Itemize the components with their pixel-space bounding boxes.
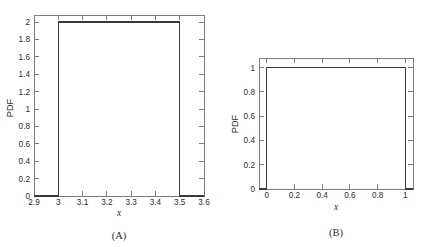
panel-a-ytick-1: 0.2: [19, 175, 31, 184]
panel-b-xtick-5: 1: [403, 191, 408, 200]
panel-a-ytick-8: 1.6: [19, 53, 31, 62]
panel-b-y-tick-labels: 0 0.2 0.4 0.6 0.8 1: [244, 64, 256, 194]
panel-a-pdf-curve: [34, 22, 204, 196]
panel-a-axes-frame: [34, 15, 204, 196]
panel-a-caption: (A): [112, 230, 127, 242]
panel-b-x-tick-labels: 0 0.2 0.4 0.6 0.8 1: [264, 191, 408, 200]
panel-b-xtick-4: 0.8: [372, 191, 384, 200]
panel-a-xtick-1: 3: [56, 198, 61, 207]
panel-a-ytick-3: 0.6: [19, 140, 31, 149]
panel-a-ytick-0: 0: [25, 192, 30, 201]
panel-a-y-ticks-right: [199, 22, 204, 179]
panel-b-xtick-2: 0.4: [316, 191, 328, 200]
panel-b-pdf-curve: [259, 68, 413, 189]
panel-b-x-ticks: [267, 184, 406, 189]
panel-a-ytick-10: 2: [25, 18, 30, 27]
panel-b-axes-frame: [259, 58, 413, 189]
panel-a: 2.9 3 3.1 3.2 3.3 3.4 3.5 3.6 0 0.2 0.4 …: [0, 0, 217, 247]
panel-b-ytick-5: 1: [250, 64, 255, 73]
panel-a-xtick-3: 3.2: [101, 198, 113, 207]
panel-b-xtick-3: 0.6: [344, 191, 356, 200]
panel-a-xtick-6: 3.5: [174, 198, 186, 207]
panel-b-caption: (B): [329, 227, 344, 239]
figure-uniform-distributions: 2.9 3 3.1 3.2 3.3 3.4 3.5 3.6 0 0.2 0.4 …: [0, 0, 434, 247]
panel-a-y-axis-label: PDF: [5, 98, 15, 117]
panel-a-xtick-2: 3.1: [77, 198, 89, 207]
panel-b-ytick-1: 0.2: [244, 161, 256, 170]
panel-a-y-tick-labels: 0 0.2 0.4 0.6 0.8 1 1.2 1.4 1.6 1.8 2: [19, 18, 31, 201]
panel-a-x-axis-label: x: [116, 208, 122, 218]
panel-a-x-ticks: [34, 191, 204, 196]
panel-a-ytick-4: 0.8: [19, 122, 31, 131]
panel-a-ytick-2: 0.4: [19, 157, 31, 166]
panel-b-ytick-3: 0.6: [244, 112, 256, 121]
panel-a-x-tick-labels: 2.9 3 3.1 3.2 3.3 3.4 3.5 3.6: [28, 198, 210, 207]
panel-b-y-axis-label: PDF: [230, 114, 240, 133]
panel-a-ytick-9: 1.8: [19, 35, 31, 44]
panel-b-plot: 0 0.2 0.4 0.6 0.8 1 0 0.2 0.4 0.6 0.8 1 …: [217, 0, 434, 247]
panel-b: 0 0.2 0.4 0.6 0.8 1 0 0.2 0.4 0.6 0.8 1 …: [217, 0, 434, 247]
panel-a-ytick-6: 1.2: [19, 88, 31, 97]
panel-a-plot: 2.9 3 3.1 3.2 3.3 3.4 3.5 3.6 0 0.2 0.4 …: [0, 0, 217, 247]
panel-a-ytick-7: 1.4: [19, 70, 31, 79]
panel-b-ytick-0: 0: [250, 185, 255, 194]
panel-a-xtick-5: 3.4: [150, 198, 162, 207]
panel-b-ytick-2: 0.4: [244, 136, 256, 145]
panel-b-x-ticks-top: [267, 58, 406, 63]
panel-a-ytick-5: 1: [25, 105, 30, 114]
panel-a-xtick-7: 3.6: [198, 198, 210, 207]
panel-a-xtick-0: 2.9: [28, 198, 40, 207]
panel-b-y-ticks: [259, 68, 264, 189]
panel-a-y-ticks: [34, 22, 39, 196]
panel-b-ytick-4: 0.8: [244, 88, 256, 97]
panel-b-x-axis-label: x: [333, 202, 339, 212]
panel-b-xtick-0: 0: [264, 191, 269, 200]
panel-b-y-ticks-right: [408, 68, 413, 165]
panel-b-xtick-1: 0.2: [289, 191, 301, 200]
panel-a-xtick-4: 3.3: [125, 198, 137, 207]
panel-a-x-ticks-top: [58, 15, 179, 20]
